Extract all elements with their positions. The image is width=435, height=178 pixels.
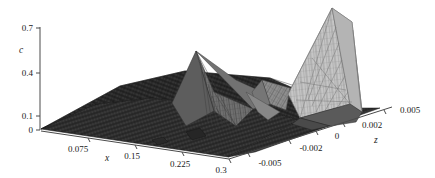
c-tick-label-0.1: 0.1 — [22, 111, 33, 121]
x-tick-label-0.3: 0.3 — [215, 165, 227, 175]
x-tick-label-0.075: 0.075 — [68, 144, 89, 154]
z-tick-label-0: 0 — [335, 131, 340, 141]
x-tick-label-0.15: 0.15 — [124, 151, 140, 161]
z-tick-label--0.005: -0.005 — [258, 158, 282, 168]
c-tick-label-0: 0 — [29, 125, 34, 135]
z-tick-label-0.002: 0.002 — [362, 120, 382, 130]
z-tick-label--0.002: -0.002 — [299, 143, 322, 153]
x-axis-title: x — [104, 153, 110, 163]
x-tick-label-0.225: 0.225 — [170, 159, 191, 169]
z-tick-label-0.005: 0.005 — [400, 105, 421, 115]
c-tick-label-0.7: 0.7 — [22, 23, 34, 33]
z-axis-title: z — [373, 135, 378, 145]
surface-plot-figure: 0.7 0.4 0.1 0 c — [0, 0, 435, 178]
plot-canvas: 0.7 0.4 0.1 0 c — [0, 0, 435, 178]
c-tick-label-0.4: 0.4 — [22, 68, 34, 78]
